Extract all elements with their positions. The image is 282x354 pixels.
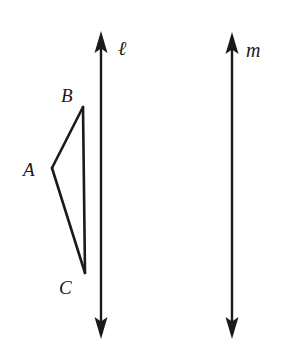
line-l (95, 31, 108, 339)
line-label-m: m (246, 40, 260, 60)
vertex-label-c: C (59, 278, 72, 297)
vertex-label-b: B (61, 86, 73, 105)
geometry-diagram: A B C ℓ m (0, 0, 282, 354)
line-m (226, 32, 239, 339)
triangle-edge-ca (52, 168, 85, 273)
triangle-edge-bc (83, 107, 85, 273)
triangle-abc (52, 107, 85, 273)
vertex-label-a: A (23, 160, 35, 179)
line-label-l: ℓ (118, 38, 126, 58)
triangle-edge-ab (52, 107, 83, 168)
geometry-canvas (0, 0, 282, 354)
